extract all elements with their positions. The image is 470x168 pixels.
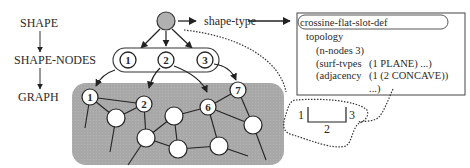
graph-node: 7	[230, 82, 246, 98]
shape-node: 3	[197, 52, 213, 68]
frame-line-n-nodes: (n-nodes 3)	[316, 45, 365, 57]
profile-label-3: 3	[349, 108, 355, 122]
svg-text:6: 6	[205, 101, 211, 113]
shape-node: 2	[158, 52, 174, 68]
svg-text:3: 3	[202, 54, 208, 66]
frame-line-surf-types-key: (surf-tvpes	[316, 58, 362, 70]
slot-profile-icon	[308, 107, 346, 122]
graph-node	[107, 109, 125, 127]
frame-line-topology: topology	[306, 31, 344, 42]
shape-root-node	[157, 12, 175, 30]
frame-line-adjacency-value: (1 (2 CONCAVE))	[369, 70, 449, 82]
svg-text:2: 2	[141, 98, 147, 110]
graph-node: 1	[82, 89, 98, 105]
profile-label-2: 2	[324, 122, 330, 136]
graph-node: 6	[200, 99, 216, 115]
graph-node	[165, 107, 183, 125]
level-shape: SHAPE	[20, 16, 58, 30]
shape-node: 1	[120, 52, 136, 68]
frame-title: crossine-flat-slot-def	[300, 17, 388, 28]
svg-text:1: 1	[125, 54, 131, 66]
graph-node	[210, 137, 228, 155]
graph-node: 2	[136, 96, 152, 112]
svg-text:7: 7	[235, 84, 241, 96]
graph-node	[169, 140, 187, 158]
frame-line-surf-types-value: (1 PLANE) ...)	[369, 58, 432, 70]
arrow-icon	[141, 29, 160, 48]
profile-label-1: 1	[298, 108, 304, 122]
diagram-canvas: SHAPE SHAPE-NODES GRAPH shape-type 1 2 3	[0, 0, 470, 168]
graph-node	[137, 129, 155, 147]
frame-line-adjacency-key: (adjacency	[316, 70, 362, 82]
frame-line-ellipsis: ...)	[369, 83, 381, 95]
graph-node	[244, 116, 262, 134]
svg-text:1: 1	[87, 91, 93, 103]
svg-text:2: 2	[163, 54, 169, 66]
level-shape-nodes: SHAPE-NODES	[14, 53, 96, 67]
arrow-icon	[172, 29, 192, 48]
level-graph: GRAPH	[18, 90, 59, 104]
